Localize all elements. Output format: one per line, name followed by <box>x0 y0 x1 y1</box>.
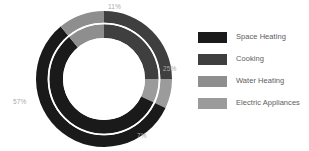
legend-item-space-heating[interactable]: Space Heating <box>198 26 304 48</box>
donut-center-hole <box>63 38 145 120</box>
legend-swatch-cooking <box>198 54 227 65</box>
legend-item-water-heating[interactable]: Water Heating <box>198 70 304 92</box>
pct-label-electric-appliances: 7% <box>137 133 147 140</box>
pct-label-space-heating: 57% <box>13 99 26 106</box>
chart-legend: Space Heating Cooking Water Heating Elec… <box>198 26 304 114</box>
donut-chart <box>34 9 174 149</box>
legend-item-electric-appliances[interactable]: Electric Appliances <box>198 92 304 114</box>
legend-swatch-space-heating <box>198 32 227 43</box>
pct-label-cooking: 25% <box>163 66 176 73</box>
legend-label-cooking: Cooking <box>236 55 264 63</box>
legend-item-cooking[interactable]: Cooking <box>198 48 304 70</box>
legend-label-electric-appliances: Electric Appliances <box>236 99 300 107</box>
donut-chart-figure: 11% 25% 7% 57% Space Heating Cooking Wat… <box>0 0 309 151</box>
donut-svg <box>34 9 174 149</box>
legend-swatch-electric-appliances <box>198 98 227 109</box>
pct-label-water-heating: 11% <box>108 4 121 11</box>
legend-label-water-heating: Water Heating <box>236 77 284 85</box>
legend-label-space-heating: Space Heating <box>236 33 286 41</box>
legend-swatch-water-heating <box>198 76 227 87</box>
